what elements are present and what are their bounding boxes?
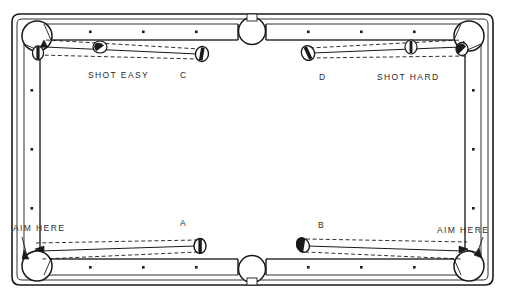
diamond-sight <box>360 31 363 34</box>
pool-table-illustration <box>0 0 505 299</box>
diamond-sight <box>31 148 34 151</box>
diamond-sight <box>307 266 310 269</box>
aim-corridor-c-lower <box>38 55 199 59</box>
diamond-sight <box>472 89 475 92</box>
rail-bottom-left <box>44 259 238 275</box>
annotation-shot-easy: SHOT EASY <box>88 71 149 80</box>
annotation-label-a: A <box>180 219 186 228</box>
shot-path-c <box>38 40 200 59</box>
diamond-sight <box>307 31 310 34</box>
object-ball-d <box>299 43 317 62</box>
annotation-shot-hard: SHOT HARD <box>377 73 440 82</box>
aim-corridor-d-lower <box>310 56 467 58</box>
diamond-sight <box>360 266 363 269</box>
cue-ball-c <box>93 41 107 53</box>
object-ball-a <box>194 239 206 254</box>
aim-corridor-b-upper <box>306 239 467 242</box>
shot-line-d <box>312 47 461 53</box>
pocket-ball-d <box>456 43 468 56</box>
annotation-label-b: B <box>318 221 324 230</box>
object-ball-b <box>293 236 312 255</box>
bottom-side-pocket <box>239 256 266 286</box>
diamond-sight <box>413 266 416 269</box>
shot-line-b <box>307 246 463 251</box>
table-pockets <box>22 14 484 285</box>
cue-ball-d <box>405 40 417 54</box>
object-ball-c <box>194 45 209 62</box>
aim-corridor-a-lower <box>42 252 198 259</box>
annotation-label-c: C <box>180 71 187 80</box>
annotation-label-d: D <box>319 73 326 82</box>
aim-corridor-a-upper <box>36 240 198 243</box>
shot-path-d <box>310 40 467 58</box>
shot-line-a <box>40 246 196 251</box>
rail-diamond-sights <box>31 31 475 269</box>
annotation-aim-here-right: AIM HERE <box>437 226 489 235</box>
table-rails <box>24 24 481 275</box>
diamond-sight <box>195 31 198 34</box>
shot-path-b <box>305 237 483 259</box>
diamond-sight <box>142 31 145 34</box>
diamond-sight <box>31 89 34 92</box>
aim-corridor-b-lower <box>305 252 462 259</box>
diamond-sight <box>142 266 145 269</box>
rail-bottom-right <box>266 259 461 275</box>
table-outer-frame <box>12 14 493 285</box>
diamond-sight <box>31 207 34 210</box>
rail-top-left <box>44 24 238 40</box>
rail-top-right <box>266 24 461 40</box>
pool-table-diagram-canvas: SHOT EASY C D SHOT HARD AIM HERE A B AIM… <box>0 0 505 299</box>
shot-line-c <box>45 47 198 54</box>
diamond-sight <box>413 31 416 34</box>
aim-corridor-d-upper <box>310 40 461 48</box>
diamond-sight <box>472 148 475 151</box>
diamond-sight <box>472 207 475 210</box>
pocket-ball-c <box>33 46 44 60</box>
diamond-sight <box>195 266 198 269</box>
diamond-sight <box>89 31 92 34</box>
annotation-aim-here-left: AIM HERE <box>13 224 65 233</box>
pocket-mouth-details <box>24 24 481 275</box>
diamond-sight <box>89 266 92 269</box>
